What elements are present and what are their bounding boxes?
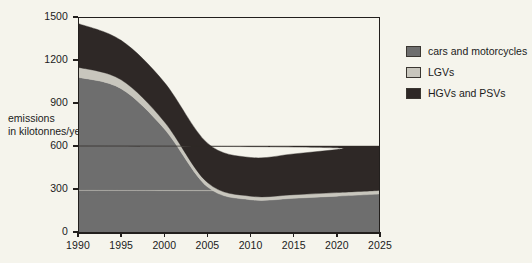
- y-axis-tick-label: 1500: [8, 10, 68, 22]
- chart-page: emissions in kilotonnes/year 03006009001…: [0, 0, 532, 263]
- x-axis-tick-label: 2000: [140, 239, 188, 251]
- x-axis-tick-label: 2010: [227, 239, 275, 251]
- legend-item-lgvs: LGVs: [406, 64, 528, 80]
- y-axis-title-line-1: emissions: [8, 112, 80, 125]
- x-axis-tick-label: 2025: [356, 239, 404, 251]
- x-axis-tick-label: 2005: [183, 239, 231, 251]
- y-axis-tick-label: 600: [8, 139, 68, 151]
- x-axis-tick-label: 2020: [313, 239, 361, 251]
- plot-area: [78, 17, 380, 232]
- legend-item-label: LGVs: [428, 66, 454, 78]
- x-axis-tick-label: 1995: [97, 239, 145, 251]
- y-axis-tick-label: 1200: [8, 53, 68, 65]
- x-axis-line: [78, 232, 380, 234]
- y-axis-tick-label: 300: [8, 182, 68, 194]
- legend-swatch-icon: [406, 67, 421, 78]
- x-axis-tick-label: 2015: [270, 239, 318, 251]
- legend: cars and motorcycles LGVs HGVs and PSVs: [406, 43, 528, 106]
- legend-swatch-icon: [406, 88, 421, 99]
- legend-item-label: cars and motorcycles: [428, 45, 527, 57]
- stacked-area-plot: [78, 17, 380, 232]
- y-axis-tick-label: 0: [8, 225, 68, 237]
- legend-swatch-icon: [406, 46, 421, 57]
- y-axis-title: emissions in kilotonnes/year: [8, 112, 80, 137]
- legend-item-cars-and-motorcycles: cars and motorcycles: [406, 43, 528, 59]
- y-axis-tick-label: 900: [8, 96, 68, 108]
- legend-item-label: HGVs and PSVs: [428, 87, 506, 99]
- y-axis-title-line-2: in kilotonnes/year: [8, 125, 80, 138]
- x-axis-tick-label: 1990: [54, 239, 102, 251]
- legend-item-hgvs-and-psvs: HGVs and PSVs: [406, 85, 528, 101]
